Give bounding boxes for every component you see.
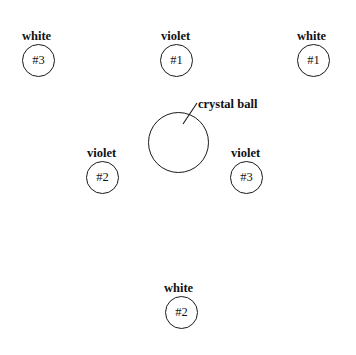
node-label-violet-1: violet [161, 30, 190, 43]
crystal-ball-label: crystal ball [198, 98, 257, 111]
node-id-violet-1: #1 [170, 54, 183, 67]
node-id-violet-3: #3 [240, 171, 253, 184]
node-circle-white-3: #3 [22, 44, 55, 77]
node-label-white-2: white [164, 282, 193, 295]
node-circle-violet-3: #3 [230, 161, 263, 194]
node-id-white-3: #3 [32, 54, 45, 67]
node-label-white-1: white [297, 30, 326, 43]
node-id-white-1: #1 [307, 54, 320, 67]
node-id-white-2: #2 [175, 306, 188, 319]
crystal-ball-circle [148, 112, 209, 173]
node-label-violet-2: violet [87, 147, 116, 160]
node-circle-violet-2: #2 [86, 161, 119, 194]
node-circle-violet-1: #1 [160, 44, 193, 77]
diagram-canvas: white #3 violet #1 white #1 crystal ball… [0, 0, 356, 355]
node-circle-white-1: #1 [297, 44, 330, 77]
node-label-violet-3: violet [231, 147, 260, 160]
node-label-white-3: white [22, 30, 51, 43]
node-circle-white-2: #2 [165, 296, 198, 329]
node-id-violet-2: #2 [96, 171, 109, 184]
